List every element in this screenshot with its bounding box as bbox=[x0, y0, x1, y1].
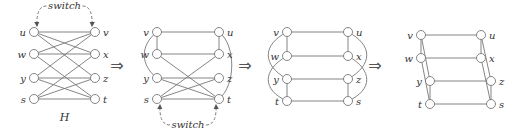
node-label-y: y bbox=[19, 73, 26, 84]
switch-arrow-left bbox=[37, 6, 47, 26]
node-label-v: v bbox=[273, 27, 279, 38]
node-label-z: z bbox=[498, 76, 505, 87]
node-label-u: u bbox=[489, 30, 495, 41]
diagram-canvas: uwysvxztHswitchvwysuxztswitchvwytuxzsvwy… bbox=[0, 0, 523, 128]
switch-arrow-right bbox=[83, 6, 93, 26]
switch-label: switch bbox=[172, 119, 205, 128]
node-label-w: w bbox=[140, 49, 149, 60]
switch-arrow-right bbox=[206, 105, 216, 125]
node-w bbox=[153, 50, 162, 59]
node-w bbox=[417, 54, 426, 63]
node-t bbox=[91, 95, 100, 104]
node-x bbox=[91, 50, 100, 59]
node-u bbox=[344, 28, 353, 37]
node-label-t: t bbox=[418, 99, 423, 110]
node-u bbox=[215, 28, 224, 37]
graph-G3: vwytuxzs bbox=[268, 27, 367, 107]
node-label-v: v bbox=[143, 27, 149, 38]
node-t bbox=[283, 97, 292, 106]
graph-H: uwysvxztHswitch bbox=[17, 0, 109, 124]
node-t bbox=[426, 100, 435, 109]
node-label-s: s bbox=[499, 99, 504, 110]
node-v bbox=[153, 28, 162, 37]
node-z bbox=[487, 77, 496, 86]
graph-G4: vwytuxzs bbox=[404, 30, 505, 110]
node-label-u: u bbox=[227, 27, 233, 38]
node-x bbox=[215, 50, 224, 59]
graph-G2: vwysuxztswitch bbox=[140, 27, 233, 129]
node-s bbox=[153, 95, 162, 104]
node-x bbox=[344, 52, 353, 61]
graph-caption: H bbox=[59, 111, 70, 124]
node-w bbox=[283, 52, 292, 61]
node-label-u: u bbox=[356, 27, 362, 38]
node-z bbox=[91, 74, 100, 83]
node-label-y: y bbox=[272, 74, 279, 85]
node-label-x: x bbox=[489, 53, 495, 64]
node-s bbox=[487, 100, 496, 109]
node-label-y: y bbox=[415, 76, 422, 87]
node-label-w: w bbox=[270, 51, 279, 62]
node-label-s: s bbox=[144, 94, 149, 105]
curved-edge bbox=[219, 32, 232, 99]
node-u bbox=[30, 28, 39, 37]
node-label-v: v bbox=[407, 30, 413, 41]
node-label-v: v bbox=[103, 27, 109, 38]
node-label-w: w bbox=[17, 49, 26, 60]
node-y bbox=[283, 75, 292, 84]
node-label-x: x bbox=[356, 51, 362, 62]
node-label-z: z bbox=[355, 74, 362, 85]
switch-arrow-left bbox=[160, 105, 170, 125]
node-s bbox=[344, 97, 353, 106]
node-label-u: u bbox=[20, 27, 26, 38]
node-v bbox=[417, 31, 426, 40]
implies-arrow-2: ⇒ bbox=[238, 56, 251, 75]
node-label-y: y bbox=[142, 73, 149, 84]
node-x bbox=[477, 54, 486, 63]
node-z bbox=[215, 74, 224, 83]
switch-label: switch bbox=[48, 0, 81, 11]
node-label-w: w bbox=[404, 53, 413, 64]
node-label-z: z bbox=[226, 73, 233, 84]
node-y bbox=[30, 74, 39, 83]
node-w bbox=[30, 50, 39, 59]
node-s bbox=[30, 95, 39, 104]
node-u bbox=[477, 31, 486, 40]
node-label-s: s bbox=[21, 94, 26, 105]
node-label-x: x bbox=[227, 49, 233, 60]
node-label-t: t bbox=[103, 94, 108, 105]
node-label-z: z bbox=[102, 73, 109, 84]
graph-transformation-diagram: uwysvxztHswitchvwysuxztswitchvwytuxzsvwy… bbox=[0, 0, 523, 128]
node-y bbox=[153, 74, 162, 83]
node-label-t: t bbox=[227, 94, 232, 105]
node-v bbox=[283, 28, 292, 37]
node-z bbox=[344, 75, 353, 84]
node-v bbox=[91, 28, 100, 37]
node-t bbox=[215, 95, 224, 104]
implies-arrow-3: ⇒ bbox=[368, 56, 381, 75]
node-label-s: s bbox=[356, 96, 361, 107]
implies-arrow-1: ⇒ bbox=[110, 56, 123, 75]
node-label-x: x bbox=[103, 49, 109, 60]
node-y bbox=[426, 77, 435, 86]
